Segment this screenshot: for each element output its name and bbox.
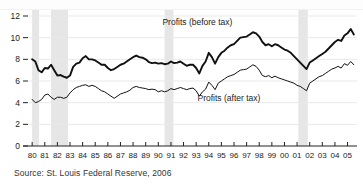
- recession-bands: [32, 10, 308, 146]
- y-axis-ticks: 024681012: [11, 11, 28, 151]
- svg-text:87: 87: [116, 151, 125, 160]
- svg-text:02: 02: [305, 151, 314, 160]
- svg-text:05: 05: [343, 151, 352, 160]
- svg-text:90: 90: [154, 151, 163, 160]
- annotation-after-tax: Profits (after tax): [198, 93, 261, 103]
- svg-text:96: 96: [230, 151, 239, 160]
- svg-text:99: 99: [267, 151, 276, 160]
- series-annotations: Profits (before tax) Profits (after tax): [162, 17, 260, 103]
- svg-text:83: 83: [66, 151, 75, 160]
- svg-text:97: 97: [242, 151, 251, 160]
- svg-text:94: 94: [204, 151, 213, 160]
- svg-text:81: 81: [40, 151, 49, 160]
- svg-text:92: 92: [179, 151, 188, 160]
- svg-text:86: 86: [103, 151, 112, 160]
- svg-text:8: 8: [15, 54, 20, 64]
- profits-line-chart: 024681012 808182838485868788899091929394…: [0, 0, 363, 184]
- svg-text:89: 89: [141, 151, 150, 160]
- annotation-before-tax: Profits (before tax): [162, 17, 232, 27]
- chart-figure: 024681012 808182838485868788899091929394…: [0, 0, 363, 184]
- svg-text:98: 98: [255, 151, 264, 160]
- svg-text:88: 88: [129, 151, 138, 160]
- svg-text:01: 01: [293, 151, 302, 160]
- svg-text:85: 85: [91, 151, 100, 160]
- svg-text:0: 0: [15, 141, 20, 151]
- svg-text:93: 93: [192, 151, 201, 160]
- source-note: Source: St. Louis Federal Reserve, 2006: [14, 168, 171, 178]
- svg-text:2: 2: [15, 119, 20, 129]
- svg-text:4: 4: [15, 98, 20, 108]
- svg-text:82: 82: [53, 151, 62, 160]
- svg-text:10: 10: [11, 33, 21, 43]
- svg-text:80: 80: [28, 151, 37, 160]
- svg-text:12: 12: [11, 11, 21, 21]
- svg-text:03: 03: [318, 151, 327, 160]
- svg-text:6: 6: [15, 76, 20, 86]
- svg-text:00: 00: [280, 151, 289, 160]
- svg-text:84: 84: [78, 151, 87, 160]
- svg-text:95: 95: [217, 151, 226, 160]
- svg-text:91: 91: [166, 151, 175, 160]
- svg-text:04: 04: [330, 151, 339, 160]
